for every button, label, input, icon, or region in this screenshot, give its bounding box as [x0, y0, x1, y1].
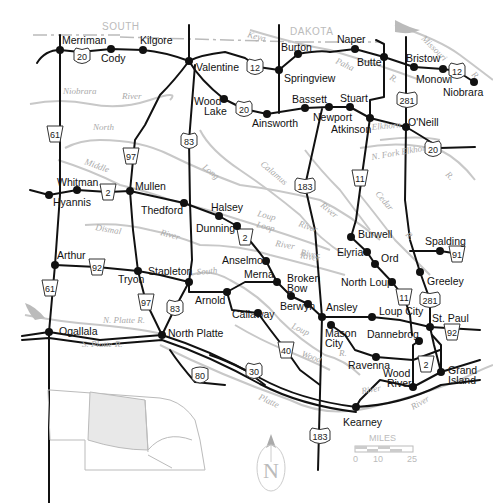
state-highway-shield-icon: 40 — [278, 342, 294, 358]
town-marker-icon[interactable] — [56, 46, 64, 54]
us-highway-shield-icon: 20 — [425, 141, 441, 157]
state-highway-shield-icon: 97 — [138, 294, 154, 310]
town-arnold[interactable]: Arnold — [195, 288, 231, 306]
town-marker-icon[interactable] — [439, 65, 447, 73]
town-marker-icon[interactable] — [262, 257, 270, 265]
town-label: Bow — [287, 282, 308, 294]
town-marker-icon[interactable] — [185, 278, 193, 286]
shield-number: 30 — [249, 367, 259, 377]
shield-number: 91 — [452, 250, 462, 260]
town-marker-icon[interactable] — [351, 45, 359, 53]
us-highway-shield-icon: 83 — [167, 300, 183, 316]
town-label: Dunning — [196, 222, 235, 234]
town-label: Naper — [337, 33, 366, 45]
town-marker-icon[interactable] — [318, 313, 326, 321]
town-thedford[interactable]: Thedford — [141, 199, 188, 216]
town-marker-icon[interactable] — [363, 248, 371, 256]
state-highway-shield-icon: 92 — [444, 324, 460, 340]
town-springview[interactable]: Springview — [275, 66, 336, 84]
river-label: River — [360, 383, 382, 396]
town-marker-icon[interactable] — [352, 403, 360, 411]
town-marker-icon[interactable] — [368, 313, 376, 321]
town-marker-icon[interactable] — [437, 368, 445, 376]
town-ord[interactable]: Ord — [371, 252, 399, 268]
town-o-neill[interactable]: O'Neill — [402, 116, 439, 131]
town-marker-icon[interactable] — [139, 46, 147, 54]
town-hyannis[interactable]: Hyannis — [45, 191, 91, 208]
town-marker-icon[interactable] — [470, 78, 478, 86]
shield-number: 92 — [447, 328, 457, 338]
town-marker-icon[interactable] — [436, 247, 444, 255]
town-elyria[interactable]: Elyria — [337, 246, 371, 258]
town-grand-island[interactable]: GrandIsland — [437, 364, 477, 386]
river-label: North — [92, 122, 115, 132]
town-label: Ainsworth — [252, 117, 298, 129]
town-ogallala[interactable]: Ogallala — [45, 325, 98, 337]
river-label: River — [318, 199, 341, 220]
town-marker-icon[interactable] — [45, 191, 53, 199]
state-label: SOUTH — [102, 21, 140, 32]
town-label: Kearney — [343, 416, 383, 428]
scale-tick-25: 25 — [407, 454, 417, 464]
town-halsey[interactable]: Halsey — [211, 201, 244, 220]
town-greeley[interactable]: Greeley — [416, 268, 465, 287]
town-marker-icon[interactable] — [325, 103, 333, 111]
town-north-platte[interactable]: North Platte — [158, 327, 224, 339]
town-wood-lake[interactable]: WoodLake — [194, 95, 228, 117]
town-marker-icon[interactable] — [366, 114, 374, 122]
town-marker-icon[interactable] — [346, 103, 354, 111]
town-marker-icon[interactable] — [273, 278, 281, 286]
town-berwyn[interactable]: Berwyn — [280, 300, 315, 312]
town-marker-icon[interactable] — [215, 212, 223, 220]
town-marker-icon[interactable] — [275, 66, 283, 74]
town-label: Newport — [313, 111, 352, 123]
town-marker-icon[interactable] — [371, 260, 379, 268]
shield-number: 183 — [297, 182, 312, 192]
town-label: Ogallala — [59, 325, 98, 337]
river-label: Cedar — [373, 189, 395, 213]
town-dannebrog[interactable]: Dannebrog — [367, 328, 423, 345]
town-stapleton[interactable]: Stapleton — [148, 265, 193, 286]
town-label: Halsey — [211, 201, 244, 213]
town-label: Island — [448, 374, 476, 386]
state-highway-shield-icon: 2 — [100, 184, 116, 200]
town-burton[interactable]: Burton — [281, 41, 312, 58]
town-cody[interactable]: Cody — [101, 45, 126, 64]
town-label: Merriman — [62, 34, 106, 46]
town-label: Burton — [281, 41, 312, 53]
town-marker-icon[interactable] — [301, 104, 309, 112]
town-marker-icon[interactable] — [426, 323, 434, 331]
town-marker-icon[interactable] — [45, 328, 53, 336]
town-label: Kilgore — [140, 34, 173, 46]
river-label: Elkhorn — [370, 119, 401, 132]
town-label: Bristow — [406, 52, 441, 64]
town-marker-icon[interactable] — [126, 187, 134, 195]
town-marker-icon[interactable] — [158, 331, 166, 339]
town-label: Anselmo — [222, 254, 263, 266]
us-highway-shield-icon: 183 — [310, 428, 330, 444]
town-label: Ansley — [326, 301, 358, 313]
town-anselmo[interactable]: Anselmo — [222, 254, 270, 266]
state-highway-shield-icon: 61 — [42, 280, 58, 296]
town-marker-icon[interactable] — [410, 63, 418, 71]
town-wood-river[interactable]: WoodRiver — [383, 367, 417, 391]
shield-number: 11 — [399, 293, 408, 303]
town-marker-icon[interactable] — [347, 233, 355, 241]
state-highway-shield-icon: 92 — [89, 259, 105, 275]
town-label: Greeley — [427, 275, 465, 287]
shield-number: 20 — [428, 145, 438, 155]
inset-map — [48, 390, 205, 470]
town-marker-icon[interactable] — [185, 57, 193, 65]
town-north-loup[interactable]: North Loup — [341, 276, 396, 288]
town-marker-icon[interactable] — [51, 261, 59, 269]
river-label: Calamus — [259, 159, 290, 188]
town-marker-icon[interactable] — [416, 268, 424, 276]
town-callaway[interactable]: Callaway — [232, 308, 275, 320]
town-dunning[interactable]: Dunning — [196, 222, 241, 234]
scale-title: MILES — [369, 433, 396, 443]
town-label: Valentine — [196, 61, 239, 73]
us-highway-shield-icon: 20 — [236, 101, 252, 117]
town-broken-bow[interactable]: BrokenBow — [287, 272, 320, 300]
town-label: Ord — [381, 252, 399, 264]
town-label: Mullen — [135, 180, 166, 192]
